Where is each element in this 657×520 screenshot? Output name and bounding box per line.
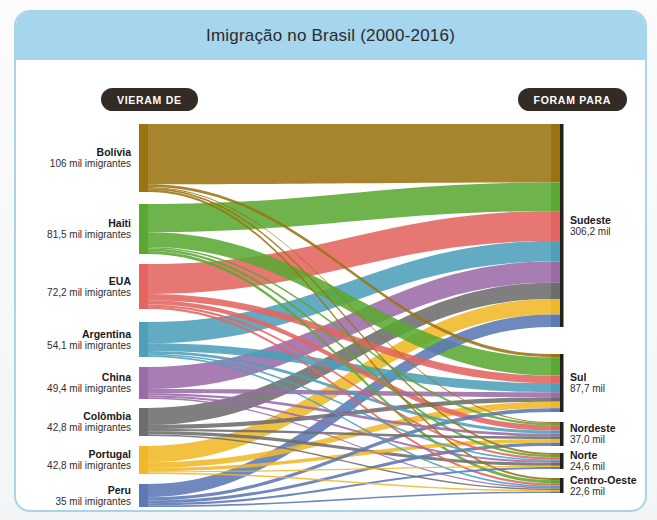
source-label-bolivia: Bolívia106 mil imigrantes — [50, 146, 131, 170]
target-node-sul-segment-bolivia — [551, 354, 560, 357]
source-label-bolivia-title: Bolívia — [50, 146, 131, 158]
target-label-sul: Sul87,7 mil — [570, 371, 605, 395]
target-label-centro-oeste-title: Centro-Oeste — [570, 474, 637, 486]
source-label-bolivia-value: 106 mil imigrantes — [50, 158, 131, 170]
target-node-norte-segment-china — [551, 461, 560, 463]
source-label-portugal: Portugal42,8 mil imigrantes — [47, 448, 131, 472]
target-node-sudeste-segment-bolivia — [551, 124, 560, 183]
target-node-sudeste-segment-colombia — [551, 283, 560, 299]
source-node-bolivia — [139, 124, 148, 192]
source-label-eua: EUA72,2 mil imigrantes — [47, 275, 131, 299]
target-node-sudeste-segment-china — [551, 262, 560, 283]
target-node-sudeste-segment-argentina — [551, 241, 560, 262]
source-node-peru — [139, 484, 148, 507]
source-node-colombia — [139, 408, 148, 436]
source-label-colombia: Colômbia42,8 mil imigrantes — [47, 410, 131, 434]
target-node-centro-oeste-segment-bolivia — [551, 478, 560, 480]
target-node-norte-segment-peru — [551, 467, 560, 469]
flow-bolivia-to-sudeste — [148, 124, 551, 184]
target-label-norte-value: 24,6 mil — [570, 461, 605, 473]
source-label-haiti-value: 81,5 mil imigrantes — [47, 229, 131, 241]
target-node-nordeste-segment-portugal — [551, 439, 560, 443]
target-node-centro-oeste-segment-haiti — [551, 480, 560, 483]
source-label-eua-title: EUA — [47, 275, 131, 287]
target-node-norte-segment-argentina — [551, 459, 560, 460]
source-node-eua — [139, 264, 148, 309]
target-node-nordeste-segment-bolivia — [551, 422, 560, 423]
source-label-argentina-value: 54,1 mil imigrantes — [47, 340, 131, 352]
source-label-portugal-value: 42,8 mil imigrantes — [47, 460, 131, 472]
source-label-colombia-title: Colômbia — [47, 410, 131, 422]
target-node-sudeste-segment-eua — [551, 211, 560, 241]
target-node-sul-segment-haiti — [551, 357, 560, 375]
target-node-norte-segment-colombia — [551, 463, 560, 466]
target-node-sul-segment-china — [551, 392, 560, 397]
target-node-norte-segment-bolivia — [551, 453, 560, 455]
source-label-argentina: Argentina54,1 mil imigrantes — [47, 328, 131, 352]
target-node-edge-nordeste — [560, 422, 564, 446]
source-node-argentina — [139, 322, 148, 357]
target-label-sudeste-title: Sudeste — [570, 214, 611, 226]
target-label-norte-title: Norte — [570, 449, 605, 461]
target-node-nordeste-segment-peru — [551, 443, 560, 446]
source-label-peru-value: 35 mil imigrantes — [55, 496, 131, 508]
target-node-centro-oeste-segment-colombia — [551, 488, 560, 489]
target-node-sul-segment-portugal — [551, 402, 560, 408]
target-node-nordeste-segment-eua — [551, 425, 560, 430]
source-node-china — [139, 367, 148, 399]
target-label-nordeste-value: 37,0 mil — [570, 434, 616, 446]
infographic-frame: Imigração no Brasil (2000-2016) VIERAM D… — [14, 10, 647, 512]
target-node-norte-segment-eua — [551, 457, 560, 459]
source-label-haiti: Haiti81,5 mil imigrantes — [47, 217, 131, 241]
target-node-sul-segment-eua — [551, 375, 560, 383]
target-node-edge-centro-oeste — [560, 478, 564, 493]
target-node-centro-oeste-segment-peru — [551, 491, 560, 493]
source-label-portugal-title: Portugal — [47, 448, 131, 460]
target-label-centro-oeste: Centro-Oeste22,6 mil — [570, 474, 637, 498]
source-label-peru-title: Peru — [55, 484, 131, 496]
target-label-nordeste-title: Nordeste — [570, 422, 616, 434]
target-node-norte-segment-portugal — [551, 466, 560, 467]
target-label-sudeste: Sudeste306,2 mil — [570, 214, 611, 238]
source-label-peru: Peru35 mil imigrantes — [55, 484, 131, 508]
source-label-china: China49,4 mil imigrantes — [47, 371, 131, 395]
source-label-haiti-title: Haiti — [47, 217, 131, 229]
target-node-nordeste-segment-china — [551, 434, 560, 437]
target-label-sudeste-value: 306,2 mil — [570, 226, 611, 238]
target-node-nordeste-segment-argentina — [551, 431, 560, 434]
target-node-centro-oeste-segment-china — [551, 487, 560, 488]
source-node-portugal — [139, 446, 148, 474]
target-node-edge-sul — [560, 354, 564, 412]
source-node-haiti — [139, 204, 148, 254]
target-node-norte-segment-haiti — [551, 455, 560, 457]
target-node-nordeste-segment-haiti — [551, 423, 560, 425]
target-node-centro-oeste-segment-eua — [551, 483, 560, 485]
target-node-edge-norte — [560, 453, 564, 469]
sankey-diagram — [16, 12, 645, 510]
source-label-eua-value: 72,2 mil imigrantes — [47, 287, 131, 299]
target-node-nordeste-segment-colombia — [551, 436, 560, 439]
target-node-edge-sudeste — [560, 124, 564, 327]
target-label-centro-oeste-value: 22,6 mil — [570, 486, 637, 498]
target-label-norte: Norte24,6 mil — [570, 449, 605, 473]
target-node-sul-segment-peru — [551, 408, 560, 412]
target-node-sudeste-segment-haiti — [551, 183, 560, 212]
target-node-centro-oeste-segment-portugal — [551, 490, 560, 491]
source-label-china-value: 49,4 mil imigrantes — [47, 383, 131, 395]
target-node-sudeste-segment-peru — [551, 315, 560, 327]
target-label-sul-value: 87,7 mil — [570, 383, 605, 395]
source-label-colombia-value: 42,8 mil imigrantes — [47, 422, 131, 434]
target-node-sul-segment-argentina — [551, 383, 560, 392]
source-label-china-title: China — [47, 371, 131, 383]
target-node-centro-oeste-segment-argentina — [551, 485, 560, 487]
target-label-sul-title: Sul — [570, 371, 605, 383]
source-label-argentina-title: Argentina — [47, 328, 131, 340]
target-node-sudeste-segment-portugal — [551, 299, 560, 315]
target-node-sul-segment-colombia — [551, 397, 560, 402]
target-label-nordeste: Nordeste37,0 mil — [570, 422, 616, 446]
